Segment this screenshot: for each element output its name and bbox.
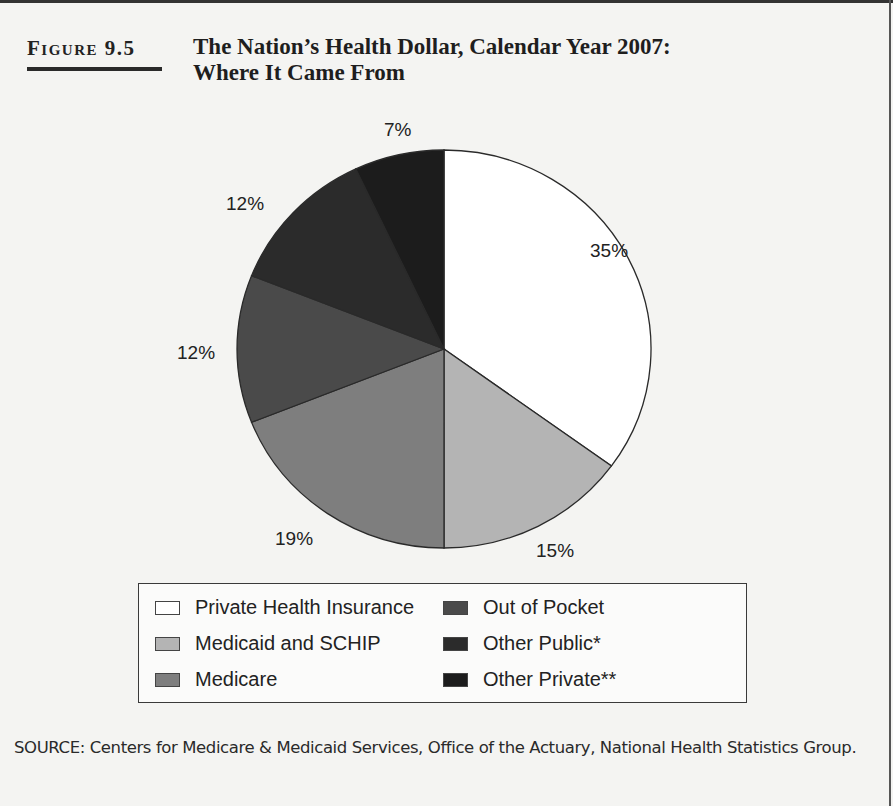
legend-swatch bbox=[443, 637, 468, 651]
legend-swatch bbox=[155, 673, 180, 687]
legend-label: Other Public* bbox=[483, 632, 601, 655]
slice-label-medicare: 19% bbox=[275, 528, 313, 550]
legend-label: Medicaid and SCHIP bbox=[195, 632, 381, 655]
source-note: SOURCE: Centers for Medicare & Medicaid … bbox=[14, 734, 880, 761]
legend-swatch bbox=[443, 601, 468, 615]
legend-swatch bbox=[155, 601, 180, 615]
legend-label: Out of Pocket bbox=[483, 596, 604, 619]
legend-item-medicaid-and-schip: Medicaid and SCHIP bbox=[155, 632, 381, 655]
legend-item-private-health-insurance: Private Health Insurance bbox=[155, 596, 414, 619]
legend-label: Medicare bbox=[195, 668, 277, 691]
pie-slices bbox=[237, 150, 651, 548]
legend-label: Private Health Insurance bbox=[195, 596, 414, 619]
legend-item-medicare: Medicare bbox=[155, 668, 277, 691]
slice-label-medicaid-and-schip: 15% bbox=[536, 540, 574, 562]
legend-swatch bbox=[443, 673, 468, 687]
chart-legend: Private Health Insurance Medicaid and SC… bbox=[138, 583, 747, 703]
legend-item-other-public: Other Public* bbox=[443, 632, 601, 655]
slice-label-other-private: 7% bbox=[384, 119, 411, 141]
slice-label-other-public: 12% bbox=[226, 193, 264, 215]
legend-item-other-private: Other Private** bbox=[443, 668, 616, 691]
slice-label-out-of-pocket: 12% bbox=[177, 342, 215, 364]
legend-swatch bbox=[155, 637, 180, 651]
legend-label: Other Private** bbox=[483, 668, 616, 691]
slice-label-private-health-insurance: 35% bbox=[590, 240, 628, 262]
legend-item-out-of-pocket: Out of Pocket bbox=[443, 596, 604, 619]
